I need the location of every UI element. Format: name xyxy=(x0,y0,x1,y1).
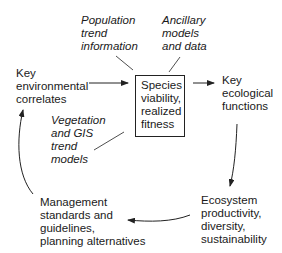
label-line: Vegetation xyxy=(51,114,106,127)
label-line: ecological xyxy=(222,87,273,100)
node-ecosystem-productivity: Ecosystem productivity, diversity, susta… xyxy=(201,194,267,246)
label-line: Population xyxy=(81,14,138,27)
label-line: models xyxy=(51,153,106,166)
label-line: Key xyxy=(16,67,88,80)
label-line: and GIS xyxy=(51,127,106,140)
label-line: sustainability xyxy=(201,233,267,246)
input-ancillary-models: Ancillary models and data xyxy=(162,14,207,53)
label-line: Ecosystem xyxy=(201,194,267,207)
label-line: information xyxy=(81,40,138,53)
label-line: functions xyxy=(222,100,273,113)
label-line: Management xyxy=(40,196,146,209)
species-viability-label: Species viability, realized fitness xyxy=(141,79,182,131)
input-vegetation-gis: Vegetation and GIS trend models xyxy=(51,114,106,166)
label-line: standards and xyxy=(40,209,146,222)
label-line: realized xyxy=(141,105,182,118)
node-ecological-functions: Key ecological functions xyxy=(222,74,273,113)
input-population-trend: Population trend information xyxy=(81,14,138,53)
label-line: correlates xyxy=(16,93,88,106)
label-line: guidelines, xyxy=(40,222,146,235)
label-line: trend xyxy=(51,140,106,153)
label-line: Species xyxy=(141,79,182,92)
label-line: diversity, xyxy=(201,220,267,233)
species-viability-box: Species viability, realized fitness xyxy=(135,75,185,137)
pointer-population xyxy=(116,56,133,70)
node-environmental-correlates: Key environmental correlates xyxy=(16,67,88,106)
label-line: viability, xyxy=(141,92,182,105)
pointer-ancillary xyxy=(169,57,180,72)
arrow-management-to-environmental xyxy=(19,110,33,194)
label-line: and data xyxy=(162,40,207,53)
label-line: planning alternatives xyxy=(40,235,146,248)
label-line: Ancillary xyxy=(162,14,207,27)
label-line: productivity, xyxy=(201,207,267,220)
label-line: fitness xyxy=(141,118,182,131)
node-management-standards: Management standards and guidelines, pla… xyxy=(40,196,146,248)
label-line: trend xyxy=(81,27,138,40)
label-line: environmental xyxy=(16,80,88,93)
label-line: Key xyxy=(222,74,273,87)
arrow-ecological-to-ecosystem xyxy=(230,124,237,186)
label-line: models xyxy=(162,27,207,40)
